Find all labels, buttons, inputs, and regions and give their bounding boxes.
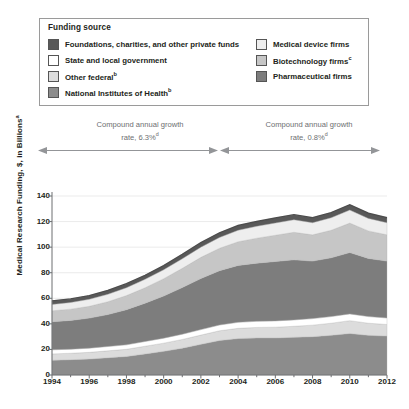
chart-page: Funding source Foundations, charities, a… (0, 0, 409, 409)
stacked-area-svg (0, 0, 409, 409)
chart-plot-area: Medical Research Funding, $, in Billions… (0, 0, 409, 409)
